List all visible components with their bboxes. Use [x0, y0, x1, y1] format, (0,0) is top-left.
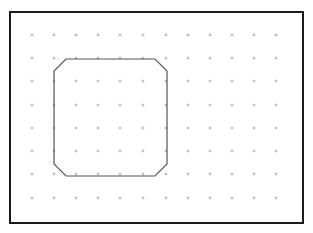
- grid-dot: [142, 197, 145, 200]
- grid-dot: [97, 104, 100, 107]
- grid-dot: [187, 57, 190, 60]
- grid-dot: [31, 197, 34, 200]
- grid-dot: [253, 104, 256, 107]
- grid-dot: [75, 197, 78, 200]
- grid-dot: [31, 80, 34, 83]
- grid-dot: [231, 150, 234, 153]
- grid-dot: [119, 150, 122, 153]
- grid-dot: [53, 197, 56, 200]
- grid-dot: [231, 197, 234, 200]
- grid-dot: [31, 104, 34, 107]
- grid-dot: [209, 150, 212, 153]
- grid-dot: [209, 127, 212, 130]
- grid-dot: [231, 80, 234, 83]
- grid-dot: [187, 34, 190, 37]
- grid-dot: [97, 34, 100, 37]
- grid-dot: [53, 57, 56, 60]
- grid-dot: [275, 80, 278, 83]
- grid-dot: [165, 173, 168, 176]
- octagon-shape: [54, 59, 167, 176]
- grid-dot: [275, 104, 278, 107]
- grid-dot: [142, 104, 145, 107]
- grid-dot: [165, 34, 168, 37]
- grid-dot: [187, 150, 190, 153]
- grid-dot: [275, 127, 278, 130]
- grid-dot: [119, 173, 122, 176]
- grid-dot: [119, 104, 122, 107]
- grid-dot: [142, 150, 145, 153]
- grid-dot: [253, 80, 256, 83]
- grid-dot: [275, 34, 278, 37]
- grid-dot: [97, 150, 100, 153]
- grid-dot: [119, 127, 122, 130]
- grid-dot: [97, 173, 100, 176]
- grid-dot: [142, 127, 145, 130]
- grid-dot: [253, 150, 256, 153]
- grid-dot: [275, 173, 278, 176]
- grid-dot: [119, 34, 122, 37]
- grid-dot: [53, 34, 56, 37]
- grid-dot: [142, 34, 145, 37]
- grid-dot: [187, 80, 190, 83]
- grid-dot: [209, 104, 212, 107]
- grid-dot: [253, 34, 256, 37]
- grid-dot: [231, 127, 234, 130]
- grid-dot: [75, 127, 78, 130]
- diagram-canvas: [0, 0, 313, 233]
- grid-dot: [75, 150, 78, 153]
- grid-dot: [165, 197, 168, 200]
- grid-dot: [231, 57, 234, 60]
- grid-dot: [119, 80, 122, 83]
- grid-dot: [97, 80, 100, 83]
- grid-dot: [75, 173, 78, 176]
- grid-dot: [75, 104, 78, 107]
- grid-dot: [31, 127, 34, 130]
- grid-dot: [253, 57, 256, 60]
- grid-dot: [31, 34, 34, 37]
- grid-dot: [187, 127, 190, 130]
- grid-dot: [209, 197, 212, 200]
- grid-dot: [275, 57, 278, 60]
- grid-dot: [209, 34, 212, 37]
- grid-dot: [53, 173, 56, 176]
- grid-dot: [75, 34, 78, 37]
- grid-dot: [275, 197, 278, 200]
- grid-dot: [142, 80, 145, 83]
- grid-dot: [187, 173, 190, 176]
- grid-dot: [231, 104, 234, 107]
- grid-dot: [142, 173, 145, 176]
- grid-dot: [119, 197, 122, 200]
- grid-dot: [275, 150, 278, 153]
- grid-dot: [75, 80, 78, 83]
- grid-dot: [31, 173, 34, 176]
- grid-dot: [165, 57, 168, 60]
- grid-dot: [253, 127, 256, 130]
- grid-dot: [187, 197, 190, 200]
- grid-dot: [253, 197, 256, 200]
- grid-dot: [31, 57, 34, 60]
- grid-dot: [253, 173, 256, 176]
- grid-dot: [209, 173, 212, 176]
- grid-dot: [231, 34, 234, 37]
- grid-dot: [97, 127, 100, 130]
- grid-dot: [187, 104, 190, 107]
- grid-dot: [209, 80, 212, 83]
- grid-dot: [97, 197, 100, 200]
- grid-dot: [231, 173, 234, 176]
- grid-dot: [31, 150, 34, 153]
- grid-dot: [209, 57, 212, 60]
